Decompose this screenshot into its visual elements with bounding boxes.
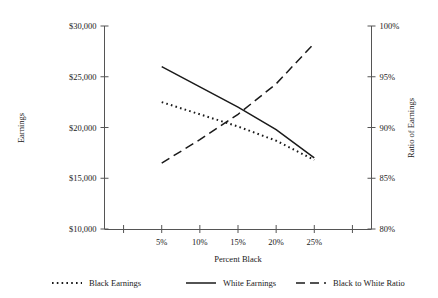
x-axis-title: Percent Black (214, 254, 262, 264)
left-tick-label: $20,000 (69, 123, 97, 133)
x-tick-label: 25% (306, 237, 322, 247)
series-lines (162, 43, 315, 163)
right-axis-tick-labels: 80%85%90%95%100% (380, 21, 400, 234)
series-white-earnings (162, 67, 315, 158)
right-tick-label: 90% (380, 123, 396, 133)
x-tick-label: 10% (192, 237, 208, 247)
left-tick-label: $25,000 (69, 72, 97, 82)
left-axis-tick-labels: $10,000$15,000$20,000$25,000$30,000 (69, 21, 97, 234)
series-black-earnings (162, 102, 315, 160)
y2-axis-title: Ratio of Earnings (406, 98, 416, 158)
x-tick-label: 15% (230, 237, 246, 247)
right-tick-label: 100% (380, 21, 400, 31)
y-axis-title: Earnings (16, 113, 26, 143)
left-tick-label: $10,000 (69, 224, 97, 234)
x-axis-tick-labels: 5%10%15%20%25% (156, 237, 322, 247)
right-tick-label: 95% (380, 72, 396, 82)
legend-label-white-earnings: White Earnings (223, 278, 276, 288)
left-tick-label: $15,000 (69, 173, 97, 183)
x-tick-label: 5% (156, 237, 167, 247)
left-tick-label: $30,000 (69, 21, 97, 31)
legend-label-black-to-white-ratio: Black to White Ratio (333, 278, 405, 288)
legend-label-black-earnings: Black Earnings (89, 278, 141, 288)
chart-figure: $10,000$15,000$20,000$25,000$30,000 80%8… (0, 0, 438, 298)
series-black-to-white-ratio (162, 43, 315, 163)
right-tick-label: 80% (380, 224, 396, 234)
x-tick-label: 20% (268, 237, 284, 247)
right-tick-label: 85% (380, 173, 396, 183)
legend: Black EarningsWhite EarningsBlack to Whi… (52, 278, 405, 288)
line-chart: $10,000$15,000$20,000$25,000$30,000 80%8… (0, 0, 438, 298)
